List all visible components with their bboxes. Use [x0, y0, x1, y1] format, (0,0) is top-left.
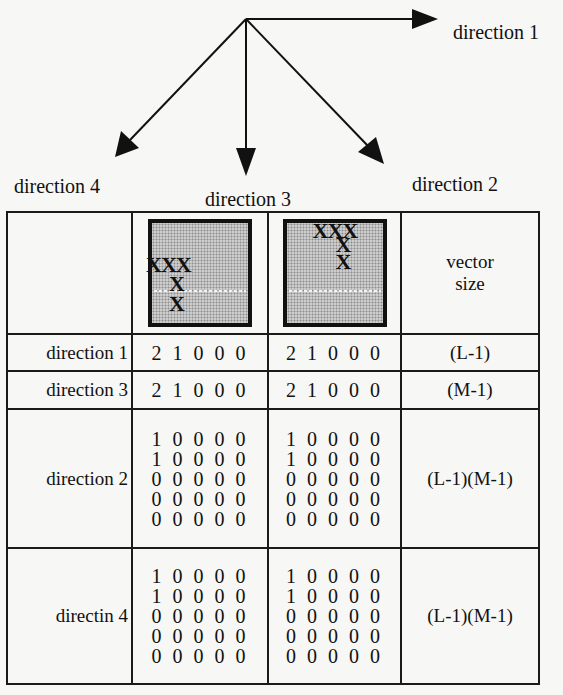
vector-line: 0 0 0 0 0 — [269, 646, 400, 666]
vector-cell: 2 1 0 0 0 — [268, 371, 401, 409]
vector-line: 1 0 0 0 0 — [133, 586, 267, 606]
vector-cell: 1 0 0 0 0 1 0 0 0 0 0 0 0 0 0 0 0 0 0 0 … — [268, 548, 401, 684]
pattern-image-1: XXX X X — [148, 219, 252, 327]
vector-line: 0 0 0 0 0 — [269, 509, 400, 529]
pattern-image-cell-2: XXX X X — [268, 212, 401, 334]
vector-line: 1 0 0 0 0 — [133, 449, 267, 469]
pattern-image-2: XXX X X — [283, 219, 387, 327]
vector-line: 0 0 0 0 0 — [133, 489, 267, 509]
corner-cell — [7, 212, 132, 334]
dotted-line — [154, 290, 246, 292]
vector-line: 0 0 0 0 0 — [133, 469, 267, 489]
vector-line: 2 1 0 0 0 — [269, 380, 400, 400]
vector-size: (L-1)(M-1) — [401, 409, 539, 548]
arrow-direction-4 — [115, 19, 246, 157]
vector-line: 0 0 0 0 0 — [269, 606, 400, 626]
vector-line: 2 1 0 0 0 — [133, 380, 267, 400]
label-direction-4: direction 4 — [14, 176, 100, 196]
x-mark: X — [169, 294, 184, 314]
vector-line: 1 0 0 0 0 — [269, 586, 400, 606]
table-row-direction-3: direction 3 2 1 0 0 0 2 1 0 0 0 (M-1) — [7, 371, 539, 409]
arrow-direction-2 — [246, 19, 384, 164]
vector-line: 1 0 0 0 0 — [133, 429, 267, 449]
vector-size-header-line1: vector — [402, 251, 538, 273]
dotted-line — [289, 290, 381, 292]
row-label: direction 3 — [7, 371, 132, 409]
vector-line: 1 0 0 0 0 — [133, 566, 267, 586]
table-row-direction-4: directin 4 1 0 0 0 0 1 0 0 0 0 0 0 0 0 0… — [7, 548, 539, 684]
vector-cell: 2 1 0 0 0 — [268, 334, 401, 371]
vector-size-header: vector size — [401, 212, 539, 334]
label-direction-3: direction 3 — [205, 189, 291, 209]
vector-cell: 1 0 0 0 0 1 0 0 0 0 0 0 0 0 0 0 0 0 0 0 … — [132, 548, 268, 684]
vector-line: 2 1 0 0 0 — [269, 343, 400, 363]
vector-line: 0 0 0 0 0 — [133, 509, 267, 529]
vector-size-header-line2: size — [402, 273, 538, 295]
vector-cell: 2 1 0 0 0 — [132, 334, 268, 371]
vector-table: XXX X X XXX X X vector size direction 1 … — [6, 211, 540, 685]
vector-cell: 2 1 0 0 0 — [132, 371, 268, 409]
vector-line: 1 0 0 0 0 — [269, 566, 400, 586]
vector-line: 1 0 0 0 0 — [269, 429, 400, 449]
vector-line: 0 0 0 0 0 — [269, 626, 400, 646]
x-mark: X — [336, 252, 351, 272]
table-row-direction-1: direction 1 2 1 0 0 0 2 1 0 0 0 (L-1) — [7, 334, 539, 371]
vector-line: 2 1 0 0 0 — [133, 343, 267, 363]
vector-line: 0 0 0 0 0 — [133, 626, 267, 646]
vector-line: 0 0 0 0 0 — [269, 489, 400, 509]
row-label: direction 1 — [7, 334, 132, 371]
table-row-direction-2: direction 2 1 0 0 0 0 1 0 0 0 0 0 0 0 0 … — [7, 409, 539, 548]
vector-line: 0 0 0 0 0 — [269, 469, 400, 489]
row-label: directin 4 — [7, 548, 132, 684]
header-row: XXX X X XXX X X vector size — [7, 212, 539, 334]
vector-cell: 1 0 0 0 0 1 0 0 0 0 0 0 0 0 0 0 0 0 0 0 … — [132, 409, 268, 548]
row-label: direction 2 — [7, 409, 132, 548]
vector-size: (M-1) — [401, 371, 539, 409]
label-direction-1: direction 1 — [453, 22, 539, 42]
label-direction-2: direction 2 — [412, 174, 498, 194]
arrow-direction-1 — [246, 9, 438, 29]
vector-size: (L-1) — [401, 334, 539, 371]
vector-line: 0 0 0 0 0 — [133, 646, 267, 666]
vector-line: 0 0 0 0 0 — [133, 606, 267, 626]
arrow-direction-3 — [236, 19, 256, 176]
vector-cell: 1 0 0 0 0 1 0 0 0 0 0 0 0 0 0 0 0 0 0 0 … — [268, 409, 401, 548]
pattern-image-cell-1: XXX X X — [132, 212, 268, 334]
vector-line: 1 0 0 0 0 — [269, 449, 400, 469]
vector-size: (L-1)(M-1) — [401, 548, 539, 684]
